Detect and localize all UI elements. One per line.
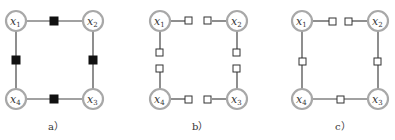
node-x4: x4 <box>150 89 170 109</box>
factor-x2-top <box>204 17 211 24</box>
node-x1: x1 <box>292 11 312 31</box>
factor-x1-x2 <box>50 17 58 25</box>
factor-x2-right <box>233 49 240 56</box>
factor-x2-x3 <box>374 58 381 65</box>
factor-x4-bottom <box>185 96 192 103</box>
panel-c: x1 x2 x3 x4 c） <box>292 11 388 132</box>
factor-x1-top <box>329 18 336 25</box>
node-x2: x2 <box>83 11 103 31</box>
panel-b: x1 x2 x3 x4 b） <box>150 11 247 132</box>
factor-x1-top <box>185 17 192 24</box>
node-x2: x2 <box>227 11 247 31</box>
factor-x2-x3 <box>89 56 97 64</box>
panel-a: x1 x2 x3 x4 a） <box>6 11 103 132</box>
node-x2: x2 <box>368 11 388 31</box>
factor-x3-right <box>233 65 240 72</box>
node-x3: x3 <box>83 89 103 109</box>
factor-graph-figure: x1 x2 x3 x4 a） x1 x2 x3 x4 <box>0 0 395 140</box>
factor-x1-left <box>156 49 163 56</box>
node-x1: x1 <box>6 11 26 31</box>
caption-c: c） <box>335 121 351 132</box>
node-x1: x1 <box>150 11 170 31</box>
factor-x4-x1 <box>299 58 306 65</box>
factor-x3-x4 <box>337 96 344 103</box>
factor-x4-x1 <box>12 56 20 64</box>
node-x3: x3 <box>227 89 247 109</box>
node-x4: x4 <box>292 89 312 109</box>
factor-x4-left <box>156 65 163 72</box>
caption-a: a） <box>48 121 64 132</box>
factor-x3-x4 <box>50 95 58 103</box>
factor-x3-bottom <box>204 96 211 103</box>
caption-b: b） <box>192 121 208 132</box>
node-x4: x4 <box>6 89 26 109</box>
factor-x2-top <box>345 18 352 25</box>
node-x3: x3 <box>368 89 388 109</box>
